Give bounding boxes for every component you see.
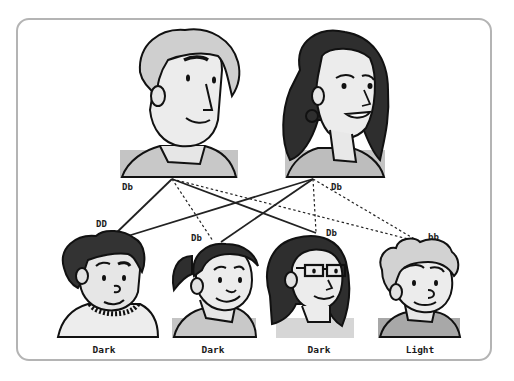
child-1-eye-left — [102, 275, 106, 281]
child-3-ear — [285, 272, 297, 288]
child-1-genotype-label: DD — [96, 219, 107, 229]
child-4-ear — [390, 284, 402, 300]
child-3-neck — [302, 306, 330, 322]
father-eye-left — [186, 75, 190, 82]
inheritance-lines — [112, 179, 423, 244]
father-neck — [160, 146, 205, 164]
child-2-genotype-label: Db — [191, 233, 202, 243]
child-2-eye-left — [218, 277, 222, 283]
child-2-eye-right — [238, 277, 242, 283]
child-1-eye-right — [122, 275, 126, 281]
edge-mother-to-child-3 — [313, 179, 316, 232]
mother-eye-left — [342, 83, 347, 89]
pedigree-diagram: Db Db — [0, 0, 514, 381]
father-portrait — [120, 29, 239, 178]
edge-mother-to-child-2 — [221, 179, 313, 242]
child-3-eye-right — [334, 269, 338, 274]
child-1-ear — [76, 268, 88, 284]
child-4-portrait — [378, 239, 460, 338]
edge-mother-to-child-1 — [118, 179, 313, 239]
child-3-eye-left — [312, 269, 316, 274]
mother-neck — [330, 130, 356, 162]
child-1-portrait — [58, 231, 158, 337]
edge-father-to-child-3 — [172, 179, 316, 233]
mother-portrait — [283, 31, 388, 178]
child-4-phenotype-label: Light — [406, 344, 435, 355]
child-4-eye-right — [434, 280, 438, 286]
child-4-eye-left — [412, 280, 416, 286]
father-eye-right — [212, 77, 216, 84]
mother-ear — [312, 87, 324, 105]
child-1-phenotype-label: Dark — [93, 344, 116, 355]
father-genotype-label: Db — [122, 182, 133, 192]
father-ear — [151, 86, 165, 106]
child-3-genotype-label: Db — [326, 228, 337, 238]
child-4-genotype-label: bb — [428, 232, 439, 242]
mother-genotype-label: Db — [331, 182, 342, 192]
child-3-face — [292, 250, 342, 310]
child-2-ear — [191, 278, 203, 294]
mother-eye-right — [368, 83, 373, 89]
child-3-portrait — [267, 236, 354, 338]
child-2-ponytail — [173, 256, 192, 290]
child-2-phenotype-label: Dark — [202, 344, 225, 355]
child-3-phenotype-label: Dark — [308, 344, 331, 355]
child-2-portrait — [172, 244, 258, 338]
edge-father-to-child-1 — [112, 179, 172, 237]
